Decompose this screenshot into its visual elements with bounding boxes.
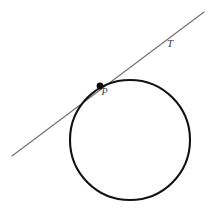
tangent-line-label: T	[167, 38, 173, 49]
tangent-point-label: P	[102, 87, 108, 97]
diagram-canvas	[0, 0, 211, 214]
tangent-circle-diagram: T P	[0, 0, 211, 214]
